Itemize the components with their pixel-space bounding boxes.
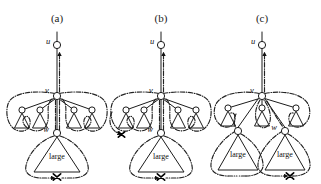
three-panel-tree-traversal-figure: (a) large: [0, 0, 321, 184]
node-w-label: w: [43, 124, 49, 134]
node-w: [157, 129, 164, 136]
node-u: [157, 41, 164, 48]
subtree-root-node: [19, 107, 25, 113]
subtree-root-node: [37, 107, 43, 113]
node-u-label: u: [46, 36, 50, 46]
node-u-label: u: [150, 36, 154, 46]
subtree-root-node: [225, 105, 231, 111]
large-subtree-label: large: [153, 152, 169, 161]
node-w-label: w: [147, 124, 153, 134]
subtree-root-node: [193, 107, 199, 113]
subtree-root-node: [89, 107, 95, 113]
node-w: [53, 129, 60, 136]
node-w: [281, 127, 288, 134]
subtree-root-node: [259, 105, 265, 111]
node-v-label: v: [149, 85, 153, 95]
panel-b-label: (b): [155, 12, 168, 25]
node-v: [53, 92, 60, 99]
large-subtree-label: large: [230, 150, 246, 159]
node-u: [258, 41, 265, 48]
panel-a-label: (a): [51, 12, 64, 25]
panel-c-label: (c): [256, 12, 269, 25]
node-w-label: w: [271, 122, 277, 132]
node-u-label: u: [251, 36, 255, 46]
node-v-label: v: [45, 85, 49, 95]
large-subtree-label: large: [49, 152, 65, 161]
node-v: [258, 92, 265, 99]
subtree-root-node: [293, 105, 299, 111]
large-subtree-label: large: [277, 150, 293, 159]
subtree-root-node: [141, 107, 147, 113]
node-v: [157, 92, 164, 99]
subtree-root-node: [175, 107, 181, 113]
subtree-root-node: [71, 107, 77, 113]
subtree-root-node: [123, 107, 129, 113]
node-v-label: v: [250, 85, 254, 95]
node-u: [53, 41, 60, 48]
node-w-left: [234, 127, 241, 134]
